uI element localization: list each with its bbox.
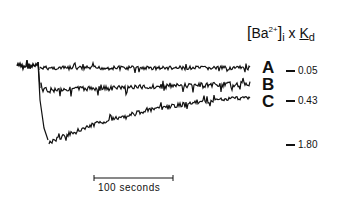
scale-bar-label: 100 seconds	[98, 182, 160, 193]
tick-1-80: 1.80	[286, 140, 317, 150]
tick-mark	[286, 144, 295, 146]
label-c: C	[262, 93, 274, 110]
tick-label: 1.80	[298, 140, 317, 150]
label-a: A	[262, 59, 274, 76]
trace-c	[38, 62, 250, 144]
tick-label: 0.05	[298, 66, 317, 76]
tick-0-43: 0.43	[286, 96, 317, 106]
tick-mark	[286, 100, 295, 102]
y-axis-title: [Ba2+]i x Kd	[247, 22, 315, 45]
trace-a	[38, 62, 250, 73]
tick-mark	[286, 70, 295, 72]
tick-label: 0.43	[298, 96, 317, 106]
label-b: B	[262, 76, 274, 93]
tick-0-05: 0.05	[286, 66, 317, 76]
scale-bar	[94, 175, 173, 181]
baseline-trace	[17, 60, 38, 69]
